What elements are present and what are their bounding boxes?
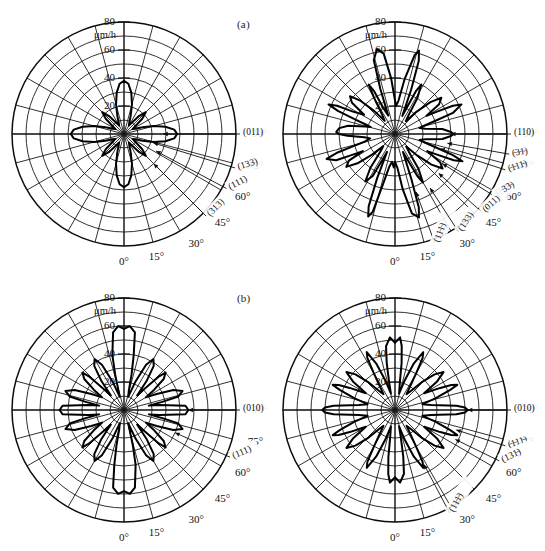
radial-unit-label: μm/h xyxy=(94,305,117,316)
radial-tick-label-80: 80 xyxy=(104,15,116,27)
angle-tick-label-0: 0° xyxy=(390,531,400,543)
grid-spoke-300 xyxy=(27,410,124,466)
angle-tick-label-30: 30° xyxy=(189,237,204,249)
plane-label-group-1: (111) xyxy=(228,439,261,464)
angle-tick-label-60: 60° xyxy=(235,190,250,202)
plane-annotations: (010)(̵1̵11̵)(131̵)(11̵1̵) xyxy=(424,402,541,517)
annotation-leader-3 xyxy=(154,164,206,216)
annotation-arrow-1 xyxy=(456,429,461,433)
radial-tick-label-20: 20 xyxy=(104,99,116,111)
polar-plot-a-right: 20406080μm/h0°15°30°45°60°75°90°(110)(̵3… xyxy=(273,6,541,268)
grid-spoke-60 xyxy=(395,410,492,466)
plane-annotations: (010)(111) xyxy=(175,402,270,464)
grid-spoke-315 xyxy=(45,410,124,489)
grid-spoke-300 xyxy=(298,410,395,466)
grid-spoke-225 xyxy=(316,55,395,134)
grid-spoke-330 xyxy=(68,134,124,231)
annotation-arrow-0 xyxy=(163,132,168,136)
polar-chart-b-right: 20406080μm/h0°15°30°45°60°75°90°(010)(̵1… xyxy=(273,282,541,544)
angle-tick-label-45: 45° xyxy=(215,216,230,228)
radial-unit-label: μm/h xyxy=(365,305,388,316)
grid-spoke-60 xyxy=(124,410,221,466)
polar-plot-a-left: 20406080μm/h0°15°30°45°60°75°90°(011)(13… xyxy=(2,6,270,268)
angle-tick-label-15: 15° xyxy=(420,526,435,538)
plane-label-group-0: (010) xyxy=(512,402,541,416)
radial-tick-label-40: 40 xyxy=(104,71,116,83)
annotation-arrow-5 xyxy=(416,192,420,197)
radial-tick-label-40: 40 xyxy=(375,347,387,359)
grid-spoke-135 xyxy=(124,55,203,134)
grid-spoke-120 xyxy=(124,78,221,134)
radial-tick-label-40: 40 xyxy=(104,347,116,359)
grid-spoke-330 xyxy=(339,410,395,507)
grid-spoke-120 xyxy=(395,78,492,134)
radial-tick-label-60: 60 xyxy=(375,319,387,331)
angle-tick-label-15: 15° xyxy=(149,526,164,538)
angle-tick-labels: 0°15°30°45°60°75°90° xyxy=(119,403,267,543)
radial-unit-label: μm/h xyxy=(365,29,388,40)
annotation-leader-1 xyxy=(153,143,234,168)
plane-label-group-0: (110) xyxy=(512,126,541,140)
plane-label-group-0: (011) xyxy=(241,126,270,140)
angle-tick-label-30: 30° xyxy=(460,513,475,525)
polar-chart-a-left: 20406080μm/h0°15°30°45°60°75°90°(011)(13… xyxy=(2,6,270,268)
annotation-arrow-3 xyxy=(442,164,447,168)
polar-chart-b-left: 20406080μm/h0°15°30°45°60°75°90°(010)(11… xyxy=(2,282,270,544)
grid-spoke-210 xyxy=(68,37,124,134)
grid-spoke-120 xyxy=(395,354,492,410)
radial-tick-label-60: 60 xyxy=(104,319,116,331)
angle-tick-labels: 0°15°30°45°60°75°90° xyxy=(390,403,538,543)
polar-plot-b-left: 20406080μm/h0°15°30°45°60°75°90°(010)(11… xyxy=(2,282,270,544)
grid-spoke-210 xyxy=(339,37,395,134)
plane-label-0: (110) xyxy=(514,127,534,138)
radial-unit-label: μm/h xyxy=(94,29,117,40)
polar-plot-b-right: 20406080μm/h0°15°30°45°60°75°90°(010)(̵1… xyxy=(273,282,541,544)
plane-label-0: (011) xyxy=(243,127,263,138)
annotation-leader-3 xyxy=(442,164,493,196)
angle-tick-label-45: 45° xyxy=(486,216,501,228)
angle-tick-label-60: 60° xyxy=(235,466,250,478)
angle-tick-label-30: 30° xyxy=(460,237,475,249)
grid-spoke-315 xyxy=(45,134,124,213)
plane-label-0: (010) xyxy=(243,403,264,414)
radial-tick-label-80: 80 xyxy=(104,291,116,303)
grid-spoke-60 xyxy=(124,134,221,190)
plane-label-group-5: (11̵1̵) xyxy=(430,204,457,246)
polar-chart-a-right: 20406080μm/h0°15°30°45°60°75°90°(110)(̵3… xyxy=(273,6,541,268)
radial-tick-label-80: 80 xyxy=(375,291,387,303)
radial-tick-label-80: 80 xyxy=(375,15,387,27)
annotation-arrow-0 xyxy=(468,408,473,412)
angle-tick-label-0: 0° xyxy=(390,255,400,267)
angle-tick-label-0: 0° xyxy=(119,531,129,543)
figure-polar-etch-rate: (a) (b) 20406080μm/h0°15°30°45°60°75°90°… xyxy=(0,0,545,551)
grid-spoke-225 xyxy=(45,55,124,134)
annotation-leader-3 xyxy=(424,464,450,512)
grid-spoke-120 xyxy=(124,354,221,410)
annotation-arrow-0 xyxy=(188,408,193,412)
plane-label-group-3: (11̵1̵) xyxy=(445,475,476,517)
angle-tick-label-45: 45° xyxy=(215,492,230,504)
angle-tick-label-45: 45° xyxy=(486,492,501,504)
grid-spoke-150 xyxy=(124,37,180,134)
plane-label-0: (010) xyxy=(514,403,535,414)
angle-tick-label-15: 15° xyxy=(149,250,164,262)
angle-tick-label-0: 0° xyxy=(119,255,129,267)
angle-tick-label-30: 30° xyxy=(189,513,204,525)
grid-spoke-300 xyxy=(27,134,124,190)
plane-label-group-0: (010) xyxy=(241,402,270,416)
radial-tick-label-60: 60 xyxy=(104,43,116,55)
grid-spoke-150 xyxy=(395,313,451,410)
angle-tick-label-15: 15° xyxy=(420,250,435,262)
grid-spoke-135 xyxy=(124,331,203,410)
angle-tick-label-60: 60° xyxy=(506,466,521,478)
